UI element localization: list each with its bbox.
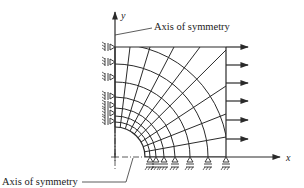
x-axis-label: x <box>285 152 291 163</box>
hole-center-mark <box>111 153 145 161</box>
annotation-bottom-axis-of-symmetry: Axis of symmetry <box>2 158 133 187</box>
annotation-top-axis-of-symmetry: Axis of symmetry <box>115 21 231 35</box>
fem-quarter-plate-diagram: y x <box>0 0 304 188</box>
annotation-top-text: Axis of symmetry <box>154 21 231 32</box>
bottom-supports <box>145 157 230 170</box>
annotation-bottom-text: Axis of symmetry <box>2 176 79 187</box>
left-supports <box>102 42 115 125</box>
load-arrows <box>226 47 248 139</box>
y-axis-label: y <box>120 10 126 21</box>
